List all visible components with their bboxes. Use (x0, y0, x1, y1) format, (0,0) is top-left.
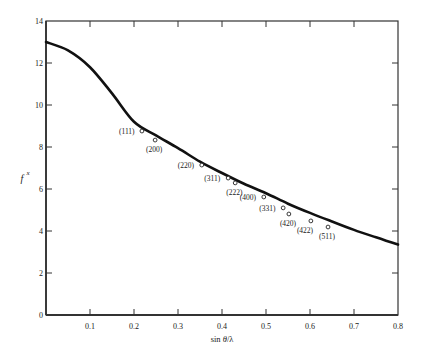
open-circle-marker (309, 219, 313, 223)
y-axis-ticks: 2468101214 (35, 17, 398, 278)
open-circle-marker (287, 212, 291, 216)
reflection-label: (220) (178, 161, 195, 170)
reflection-label: (400) (240, 193, 257, 202)
reflection-label: (422) (297, 226, 314, 235)
y-tick-label: 10 (35, 101, 43, 110)
open-circle-marker (226, 176, 230, 180)
open-circle-marker (233, 181, 237, 185)
y-tick-label: 2 (39, 269, 43, 278)
plot-frame (46, 21, 398, 315)
reflection-label: (511) (319, 232, 335, 241)
open-circle-marker (140, 129, 144, 133)
x-tick-label: 0.6 (305, 322, 315, 331)
y-axis-label-main: f (21, 173, 25, 184)
x-tick-label: 0.7 (349, 322, 359, 331)
open-circle-marker (200, 163, 204, 167)
y-tick-label: 4 (39, 227, 43, 236)
data-point: (422) (297, 219, 314, 235)
x-tick-label: 0.4 (217, 322, 227, 331)
data-point: (420) (280, 212, 297, 228)
x-tick-label: 0.8 (393, 322, 403, 331)
x-axis-label: sin θ/λ (211, 334, 235, 344)
open-circle-marker (262, 195, 266, 199)
x-tick-label: 0.2 (129, 322, 139, 331)
reflection-label: (311) (204, 174, 220, 183)
data-point: (200) (146, 138, 163, 154)
x-tick-label: 0.5 (261, 322, 271, 331)
open-circle-marker (153, 138, 157, 142)
reflection-label: (420) (280, 219, 297, 228)
y-tick-label: 8 (39, 143, 43, 152)
data-point: (400) (240, 193, 266, 202)
data-point: (511) (319, 225, 335, 241)
y-axis-label: f x (21, 169, 31, 184)
y-tick-label: 6 (39, 185, 43, 194)
x-axis-ticks: 0.10.20.30.40.50.60.70.80 (39, 21, 403, 331)
theoretical-curve (46, 42, 398, 245)
y-tick-label: 12 (35, 59, 43, 68)
y-tick-label: 14 (35, 17, 43, 26)
x-tick-label: 0.3 (173, 322, 183, 331)
y-axis-label-superscript: x (25, 169, 30, 177)
reflection-label: (111) (119, 127, 135, 136)
open-circle-marker (326, 225, 330, 229)
open-circle-marker (281, 206, 285, 210)
measured-points: (111)(200)(220)(311)(222)(400)(331)(420)… (119, 127, 336, 241)
scattering-factor-chart: 0.10.20.30.40.50.60.70.80 2468101214 (11… (0, 0, 424, 355)
x-tick-label: 0.1 (85, 322, 95, 331)
data-point: (111) (119, 127, 144, 136)
reflection-label: (331) (259, 204, 276, 213)
data-point: (331) (259, 204, 285, 213)
x-origin-label: 0 (39, 311, 43, 320)
reflection-label: (200) (146, 145, 163, 154)
plot-border (46, 21, 398, 315)
